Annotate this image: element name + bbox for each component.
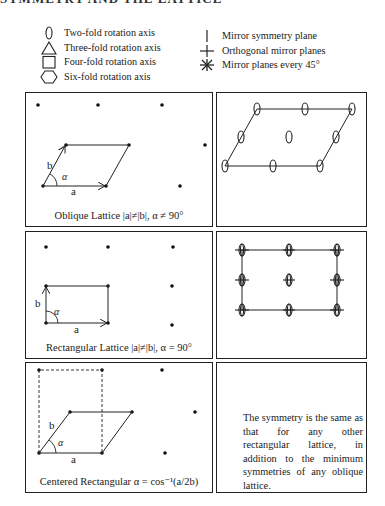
legend-item-orthogonal: Orthogonal mirror planes	[198, 44, 326, 59]
panel-oblique-symmetry	[216, 92, 367, 227]
vector-a-label: a	[71, 453, 76, 465]
page-heading: SYMMETRY AND THE LATTICE	[0, 0, 385, 3]
asterisk-mirror-45-icon	[198, 58, 216, 72]
angle-alpha-label: α	[62, 171, 67, 182]
square-four-fold-icon	[40, 55, 58, 69]
triangle-three-fold-icon	[40, 41, 58, 55]
legend-item-45: Mirror planes every 45°	[198, 58, 326, 73]
vector-a-label: a	[71, 185, 76, 197]
legend-item-six-fold: Six-fold rotation axis	[40, 70, 161, 85]
panel-rectangular-lattice: b α a Rectangular Lattice |a|≠|b|, α = 9…	[25, 231, 213, 359]
symmetry-note-text: The symmetry is the same as that for any…	[243, 411, 363, 492]
angle-alpha-label: α	[54, 306, 59, 317]
caption-centered: Centered Rectangular α = cos⁻¹(a/2b)	[26, 475, 212, 487]
oblique-lattice-diagram	[26, 93, 214, 228]
angle-alpha-label: α	[58, 437, 63, 448]
rectangular-symmetry-diagram	[217, 232, 368, 360]
panel-centered-symmetry-note: The symmetry is the same as that for any…	[216, 362, 367, 493]
legend-label: Three-fold rotation axis	[64, 41, 161, 55]
legend-label: Four-fold rotation axis	[64, 55, 156, 69]
legend-label: Six-fold rotation axis	[64, 70, 151, 84]
legend-label: Orthogonal mirror planes	[222, 44, 326, 58]
cross-orthogonal-mirror-icon	[198, 44, 216, 58]
vector-b-label: b	[49, 419, 55, 431]
legend-item-three-fold: Three-fold rotation axis	[40, 41, 161, 56]
rectangular-lattice-diagram	[26, 232, 214, 360]
legend-item-mirror: Mirror symmetry plane	[198, 29, 326, 44]
vector-b-label: b	[35, 297, 41, 309]
vertical-line-mirror-icon	[198, 29, 216, 43]
legend-mirror-planes: Mirror symmetry plane Orthogonal mirror …	[198, 29, 326, 73]
hexagon-six-fold-icon	[40, 70, 58, 84]
panel-oblique-lattice: b α a Oblique Lattice |a|≠|b|, α ≠ 90°	[25, 92, 213, 227]
caption-rectangular: Rectangular Lattice |a|≠|b|, α = 90°	[26, 342, 212, 353]
vector-b-label: b	[47, 159, 53, 171]
oblique-symmetry-diagram	[217, 93, 368, 228]
legend-label: Mirror symmetry plane	[222, 29, 317, 43]
panel-centered-rectangular-lattice: b α a Centered Rectangular α = cos⁻¹(a/2…	[25, 362, 213, 493]
legend-rotation-axes: Two-fold rotation axis Three-fold rotati…	[40, 26, 161, 84]
ellipse-two-fold-icon	[40, 26, 58, 40]
legend-item-four-fold: Four-fold rotation axis	[40, 55, 161, 70]
panel-rectangular-symmetry	[216, 231, 367, 359]
caption-oblique: Oblique Lattice |a|≠|b|, α ≠ 90°	[26, 210, 212, 221]
vector-a-label: a	[74, 323, 79, 335]
legend-label: Mirror planes every 45°	[222, 58, 320, 72]
legend-label: Two-fold rotation axis	[64, 26, 155, 40]
legend-item-two-fold: Two-fold rotation axis	[40, 26, 161, 41]
